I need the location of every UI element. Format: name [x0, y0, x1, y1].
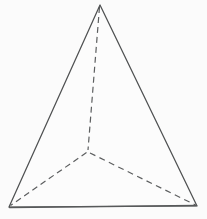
- figure-canvas: [0, 0, 207, 219]
- front-face-fill: [9, 5, 197, 207]
- tetrahedron-diagram: [0, 0, 207, 219]
